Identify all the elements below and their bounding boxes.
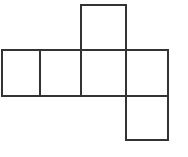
cube-face-middle-2 xyxy=(40,50,81,96)
cube-face-top xyxy=(81,5,126,50)
cube-face-bottom xyxy=(126,96,168,140)
cube-net-figure xyxy=(0,0,188,157)
cube-face-middle-1 xyxy=(2,50,40,96)
cube-face-middle-3 xyxy=(81,50,126,96)
cube-face-middle-4 xyxy=(126,50,168,96)
cube-net-svg xyxy=(0,0,188,157)
